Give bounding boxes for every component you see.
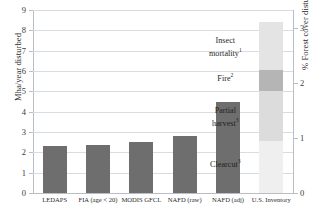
bar-modis-gfcl [129,142,153,193]
y-label-left-8: 8 [0,26,26,34]
gridline-3 [33,132,293,133]
segment-label-clearcut: Clearcut3 [193,157,257,169]
y-label-left-1: 1 [0,169,26,177]
bar-segment-insect-mortality [259,22,283,70]
bar-segment-fire [259,70,283,91]
x-label-u-s-inventory: U.S. Inventory [231,196,311,204]
bar-segment-clearcut [259,141,283,193]
segment-label-fire: Fire2 [193,71,257,83]
bar-ledaps [43,146,67,193]
y-tick-right-1 [294,138,298,139]
y-label-left-2: 2 [0,148,26,156]
chart-container: Mha/year disturbed % Forest cover distur… [0,0,330,222]
gridline-0 [33,193,293,194]
gridline-2 [33,152,293,153]
gridline-1 [33,173,293,174]
y-tick-right-2 [294,83,298,84]
bar-segment-partial-harvest [259,91,283,141]
y-label-left-3: 3 [0,128,26,136]
y-label-right-3: 3 [300,24,320,32]
bar-stacked-us-inventory [259,22,283,193]
gridline-9 [33,10,293,11]
y-label-right-2: 2 [300,79,320,87]
y-label-left-5: 5 [0,87,26,95]
y-label-left-4: 4 [0,108,26,116]
y-label-left-6: 6 [0,67,26,75]
segment-label-insect-mortality: Insectmortality1 [193,36,257,58]
bar-fia-age-20 [86,145,110,193]
y-label-left-7: 7 [0,47,26,55]
segment-label-partial-harvest: Partialharvest3 [193,106,257,128]
y-axis-right-line [293,10,294,194]
y-tick-right-0 [294,193,298,194]
y-tick-right-3 [294,28,298,29]
gridline-5 [33,91,293,92]
gridline-8 [33,30,293,31]
y-label-right-1: 1 [300,134,320,142]
y-axis-right-title: % Forest cover disturbed [300,0,310,70]
y-label-left-9: 9 [0,6,26,14]
